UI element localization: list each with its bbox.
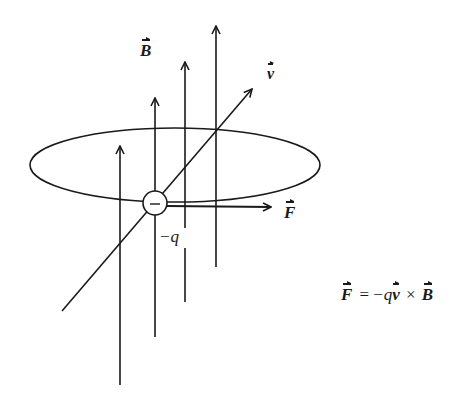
force-vector — [167, 206, 271, 207]
equation-force: F — [341, 286, 352, 303]
diagram-canvas: B v F −q F =−qv × B — [0, 0, 469, 409]
equation-minus-q: −q — [372, 285, 392, 304]
equation-cross: × — [406, 285, 416, 304]
equation-velocity: v — [392, 286, 400, 303]
charge-label: −q — [159, 228, 179, 245]
charge-circle — [143, 191, 167, 215]
lorentz-force-equation: F =−qv × B — [341, 286, 433, 303]
force-label: F — [284, 204, 295, 221]
equation-b-field: B — [422, 286, 433, 303]
equation-equals: = — [360, 285, 370, 304]
b-field-label: B — [140, 42, 151, 59]
diagram-svg — [0, 0, 469, 409]
orbit-ellipse — [30, 128, 320, 202]
velocity-label: v — [267, 66, 274, 82]
